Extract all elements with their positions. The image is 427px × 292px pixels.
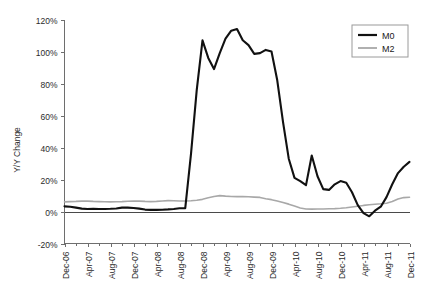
x-tick-label: Aug-11: [383, 251, 393, 278]
x-tick-label: Aug-07: [107, 251, 117, 279]
legend-label-m2: M2: [382, 44, 395, 54]
y-tick-label: 60%: [40, 112, 57, 122]
x-tick-label: Aug-08: [176, 251, 186, 279]
x-tick-label: Dec-10: [337, 251, 347, 279]
x-tick-label: Dec-09: [268, 251, 278, 279]
x-tick-label: Aug-09: [245, 251, 255, 279]
y-tick-label: 0%: [45, 208, 58, 218]
y-tick-label: 120%: [36, 16, 58, 26]
x-tick-label: Apr-11: [360, 251, 370, 276]
legend-label-m0: M0: [382, 31, 395, 41]
legend: M0 M2: [352, 25, 408, 57]
x-tick-label: Dec-06: [61, 251, 71, 279]
x-tick-label: Apr-10: [291, 251, 301, 277]
y-axis-title: Y/Y Change: [12, 127, 22, 173]
line-chart: 120%100%80%60%40%20%0%-20% Dec-06Apr-07A…: [0, 0, 427, 292]
x-tick-label: Apr-09: [222, 251, 232, 277]
x-tick-label: Apr-08: [153, 251, 163, 277]
y-tick-label: -20%: [38, 240, 58, 250]
y-tick-label: 20%: [40, 176, 57, 186]
x-tick-label: Dec-11: [406, 251, 416, 278]
x-tick-label: Apr-07: [84, 251, 94, 277]
y-tick-label: 100%: [36, 48, 58, 58]
legend-box: [352, 25, 408, 57]
y-tick-label: 40%: [40, 144, 57, 154]
y-tick-label: 80%: [40, 80, 57, 90]
x-tick-label: Dec-08: [199, 251, 209, 279]
chart-canvas: 120%100%80%60%40%20%0%-20% Dec-06Apr-07A…: [0, 0, 427, 292]
x-tick-label: Aug-10: [314, 251, 324, 279]
x-tick-label: Dec-07: [130, 251, 140, 279]
